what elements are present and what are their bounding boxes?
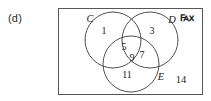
region-count-c-and-d: 5 — [122, 41, 127, 52]
set-label-c: C — [86, 13, 94, 24]
region-count-d-and-e: 7 — [140, 49, 145, 60]
set-label-d: D — [167, 14, 176, 25]
region-count-c-d-e: 9 — [130, 52, 135, 63]
venn-diagram-figure: (d) C D E ℻ 1 3 11 5 7 9 14 — [0, 0, 211, 101]
set-label-e: E — [157, 71, 165, 82]
universal-set-symbol: ℻ — [180, 10, 195, 24]
region-count-e-only: 11 — [122, 69, 132, 80]
region-count-d-only: 3 — [150, 25, 155, 36]
region-count-c-only: 1 — [102, 25, 107, 36]
venn-diagram-canvas: C D E ℻ 1 3 11 5 7 9 14 — [0, 0, 211, 101]
region-count-outside-all: 14 — [176, 74, 187, 85]
